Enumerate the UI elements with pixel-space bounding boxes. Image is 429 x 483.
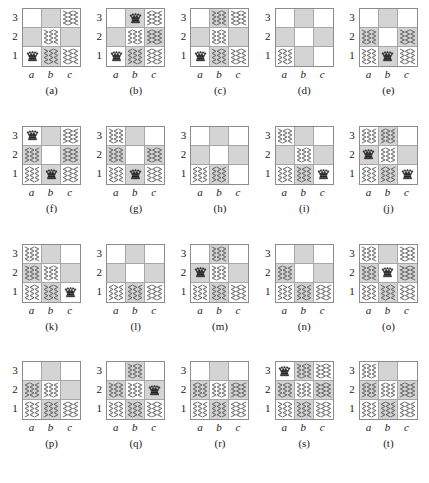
board-square-b2[interactable] [210, 381, 229, 400]
board-square-c1[interactable] [229, 165, 248, 184]
board-square-a1[interactable] [360, 283, 379, 302]
board-square-b2[interactable] [42, 146, 61, 165]
board-square-a1[interactable] [191, 47, 210, 66]
board-square-a3[interactable] [107, 245, 126, 264]
board-square-a1[interactable] [360, 165, 379, 184]
board-square-a3[interactable] [23, 127, 42, 146]
board-square-b1[interactable] [295, 400, 314, 419]
board-square-c2[interactable] [145, 264, 164, 283]
board-square-c3[interactable] [229, 127, 248, 146]
queen-piece-icon[interactable] [360, 146, 378, 164]
board-square-b3[interactable] [295, 127, 314, 146]
board-square-c3[interactable] [145, 127, 164, 146]
board-square-c2[interactable] [229, 381, 248, 400]
queen-piece-icon[interactable] [23, 127, 41, 145]
board-square-b1[interactable] [210, 165, 229, 184]
board-square-b3[interactable] [42, 9, 61, 28]
board-square-a2[interactable] [360, 146, 379, 165]
board-square-c3[interactable] [314, 9, 333, 28]
board-square-a3[interactable] [23, 362, 42, 381]
board-square-a1[interactable] [276, 47, 295, 66]
board-square-c1[interactable] [314, 47, 333, 66]
board-square-a1[interactable] [23, 47, 42, 66]
board-square-c3[interactable] [145, 362, 164, 381]
board-square-a3[interactable] [276, 245, 295, 264]
board-square-b2[interactable] [126, 264, 145, 283]
board-square-a3[interactable] [191, 127, 210, 146]
board-square-b1[interactable] [126, 47, 145, 66]
board-square-c2[interactable] [61, 28, 80, 47]
board-square-b1[interactable] [210, 400, 229, 419]
board-square-c3[interactable] [398, 362, 417, 381]
board-square-a1[interactable] [23, 400, 42, 419]
board-square-b2[interactable] [210, 264, 229, 283]
board-square-b2[interactable] [295, 381, 314, 400]
board-square-a1[interactable] [107, 283, 126, 302]
board-square-b2[interactable] [126, 28, 145, 47]
board-square-a2[interactable] [107, 146, 126, 165]
board-square-a2[interactable] [191, 146, 210, 165]
board-square-c1[interactable] [145, 283, 164, 302]
queen-piece-icon[interactable] [126, 165, 144, 184]
board-square-a2[interactable] [191, 264, 210, 283]
board-square-b3[interactable] [210, 127, 229, 146]
queen-piece-icon[interactable] [379, 47, 397, 66]
board-square-a3[interactable] [107, 127, 126, 146]
board-square-b2[interactable] [42, 264, 61, 283]
board-square-a1[interactable] [191, 165, 210, 184]
board-square-a3[interactable] [360, 127, 379, 146]
board-square-c2[interactable] [61, 146, 80, 165]
board-square-a1[interactable] [107, 47, 126, 66]
board-square-b3[interactable] [126, 127, 145, 146]
board-square-c1[interactable] [61, 47, 80, 66]
board-square-b1[interactable] [379, 165, 398, 184]
board-square-c1[interactable] [314, 283, 333, 302]
board-square-a3[interactable] [360, 362, 379, 381]
board-square-b2[interactable] [42, 381, 61, 400]
board-square-c1[interactable] [229, 283, 248, 302]
queen-piece-icon[interactable] [61, 283, 80, 302]
board-square-c3[interactable] [229, 9, 248, 28]
board-square-b2[interactable] [210, 28, 229, 47]
board-square-b1[interactable] [295, 165, 314, 184]
board-square-c3[interactable] [61, 362, 80, 381]
board-square-b3[interactable] [295, 362, 314, 381]
board-square-b3[interactable] [210, 362, 229, 381]
board-square-a2[interactable] [360, 264, 379, 283]
board-square-c2[interactable] [229, 264, 248, 283]
board-square-a2[interactable] [23, 264, 42, 283]
board-square-b1[interactable] [42, 47, 61, 66]
board-square-c1[interactable] [61, 400, 80, 419]
board-square-c2[interactable] [145, 28, 164, 47]
board-square-a2[interactable] [191, 381, 210, 400]
board-square-c1[interactable] [398, 165, 417, 184]
board-square-c2[interactable] [314, 264, 333, 283]
board-square-a1[interactable] [360, 400, 379, 419]
board-square-c3[interactable] [61, 127, 80, 146]
board-square-b2[interactable] [379, 28, 398, 47]
board-square-b1[interactable] [126, 283, 145, 302]
board-square-b3[interactable] [379, 9, 398, 28]
board-square-b3[interactable] [379, 362, 398, 381]
board-square-a2[interactable] [360, 381, 379, 400]
queen-piece-icon[interactable] [314, 165, 333, 184]
board-square-b1[interactable] [210, 47, 229, 66]
queen-piece-icon[interactable] [398, 165, 417, 184]
board-square-a2[interactable] [107, 381, 126, 400]
board-square-a1[interactable] [360, 47, 379, 66]
board-square-b3[interactable] [126, 9, 145, 28]
board-square-b3[interactable] [379, 127, 398, 146]
board-square-c2[interactable] [398, 264, 417, 283]
board-square-c2[interactable] [61, 381, 80, 400]
board-square-b3[interactable] [210, 9, 229, 28]
board-square-b3[interactable] [42, 127, 61, 146]
board-square-b2[interactable] [126, 381, 145, 400]
queen-piece-icon[interactable] [191, 47, 209, 66]
board-square-a3[interactable] [191, 362, 210, 381]
board-square-a2[interactable] [276, 28, 295, 47]
board-square-a1[interactable] [107, 165, 126, 184]
board-square-c2[interactable] [314, 28, 333, 47]
board-square-b1[interactable] [210, 283, 229, 302]
board-square-b2[interactable] [379, 264, 398, 283]
queen-piece-icon[interactable] [23, 47, 41, 66]
